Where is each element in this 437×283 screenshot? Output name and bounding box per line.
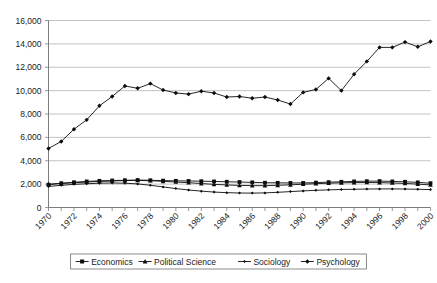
- legend-label: Economics: [91, 257, 133, 267]
- data-point: [289, 190, 292, 193]
- data-point: [225, 95, 229, 99]
- data-point: [276, 191, 279, 194]
- data-point: [340, 188, 343, 191]
- x-axis-tick-label: 1986: [237, 211, 258, 232]
- y-axis-tick-label: 16,000: [16, 16, 42, 26]
- data-point: [161, 88, 165, 92]
- y-axis-tick-label: 8,000: [20, 109, 42, 119]
- data-point: [404, 188, 407, 191]
- data-point: [174, 187, 177, 190]
- data-point: [187, 188, 190, 191]
- x-axis-tick-label: 1984: [211, 211, 232, 232]
- data-point: [353, 188, 356, 191]
- y-axis-tick-label: 14,000: [16, 39, 42, 49]
- data-point: [237, 94, 241, 98]
- x-axis-tick-label: 1970: [33, 211, 54, 232]
- data-point: [390, 45, 394, 49]
- x-axis-tick-label: 1996: [364, 211, 385, 232]
- gridlines: [49, 21, 431, 185]
- y-axis-tick-label: 10,000: [16, 86, 42, 96]
- data-point: [263, 95, 267, 99]
- x-axis-tick-label: 1974: [84, 211, 105, 232]
- x-axis-tick-label: 1982: [186, 211, 207, 232]
- chart-canvas: 02,0004,0006,0008,00010,00012,00014,0001…: [0, 0, 437, 283]
- data-point: [46, 146, 50, 150]
- data-point: [416, 45, 420, 49]
- data-point: [365, 188, 368, 191]
- data-point: [162, 185, 165, 188]
- x-axis-tick-label: 1976: [109, 211, 130, 232]
- data-point: [302, 189, 305, 192]
- chart-legend: EconomicsPolitical ScienceSociologyPsych…: [71, 254, 367, 269]
- data-point: [378, 187, 381, 190]
- data-point: [428, 39, 432, 43]
- data-point: [200, 190, 203, 193]
- data-point: [186, 92, 190, 96]
- data-point: [135, 86, 139, 90]
- data-point: [148, 81, 152, 85]
- data-point: [251, 192, 254, 195]
- x-axis-tick-marks: [49, 208, 431, 212]
- y-axis-tick-label: 6,000: [20, 132, 42, 142]
- data-point: [212, 91, 216, 95]
- legend-label: Political Science: [154, 257, 216, 267]
- data-point: [429, 188, 432, 191]
- x-axis-tick-label: 1980: [160, 211, 181, 232]
- x-axis-tick-labels: 1970197219741976197819801982198419861988…: [33, 211, 436, 232]
- series-psychology: [46, 39, 432, 150]
- data-point: [136, 182, 139, 185]
- data-point: [250, 96, 254, 100]
- legend-label: Psychology: [316, 257, 360, 267]
- line-chart: 02,0004,0006,0008,00010,00012,00014,0001…: [0, 0, 437, 283]
- data-point: [263, 191, 266, 194]
- x-axis-tick-label: 1988: [262, 211, 283, 232]
- data-point: [314, 189, 317, 192]
- x-axis-tick-label: 1972: [58, 211, 79, 232]
- data-series: [46, 39, 433, 194]
- data-point: [213, 191, 216, 194]
- y-axis-tick-label: 4,000: [20, 156, 42, 166]
- y-axis-tick-label: 2,000: [20, 179, 42, 189]
- y-axis-tick-label: 0: [37, 203, 42, 213]
- data-point: [276, 98, 280, 102]
- data-point: [174, 91, 178, 95]
- data-point: [238, 192, 241, 195]
- y-axis-tick-label: 12,000: [16, 62, 42, 72]
- data-point: [225, 191, 228, 194]
- x-axis-tick-label: 1990: [288, 211, 309, 232]
- x-axis-tick-label: 1992: [313, 211, 334, 232]
- data-point: [416, 188, 419, 191]
- x-axis-tick-label: 1978: [135, 211, 156, 232]
- data-point: [391, 187, 394, 190]
- x-axis-tick-label: 1994: [339, 211, 360, 232]
- y-axis-tick-labels: 02,0004,0006,0008,00010,00012,00014,0001…: [16, 16, 49, 213]
- data-point: [199, 89, 203, 93]
- data-point: [327, 188, 330, 191]
- legend-label: Sociology: [253, 257, 291, 267]
- legend-marker: [80, 260, 84, 264]
- x-axis-tick-label: 2000: [415, 211, 436, 232]
- x-axis-tick-label: 1998: [389, 211, 410, 232]
